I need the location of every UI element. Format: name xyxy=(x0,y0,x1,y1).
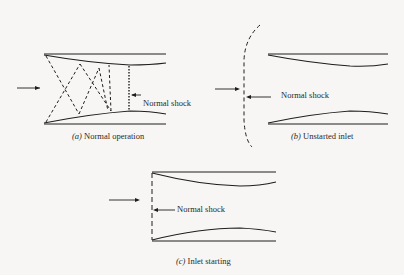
panel-c-caption: (c) Inlet starting xyxy=(176,256,231,266)
panel-a-caption: (a) Normal operation xyxy=(72,131,144,141)
panel-c-shock-label: Normal shock xyxy=(177,204,225,214)
panel-a-shock-label: Normal shock xyxy=(143,98,191,108)
panel-b-caption: (b) Unstarted inlet xyxy=(291,131,353,141)
panel-b-shock-label: Normal shock xyxy=(281,90,329,100)
panel-a-inlet xyxy=(17,54,166,124)
panel-b-inlet xyxy=(215,25,388,147)
